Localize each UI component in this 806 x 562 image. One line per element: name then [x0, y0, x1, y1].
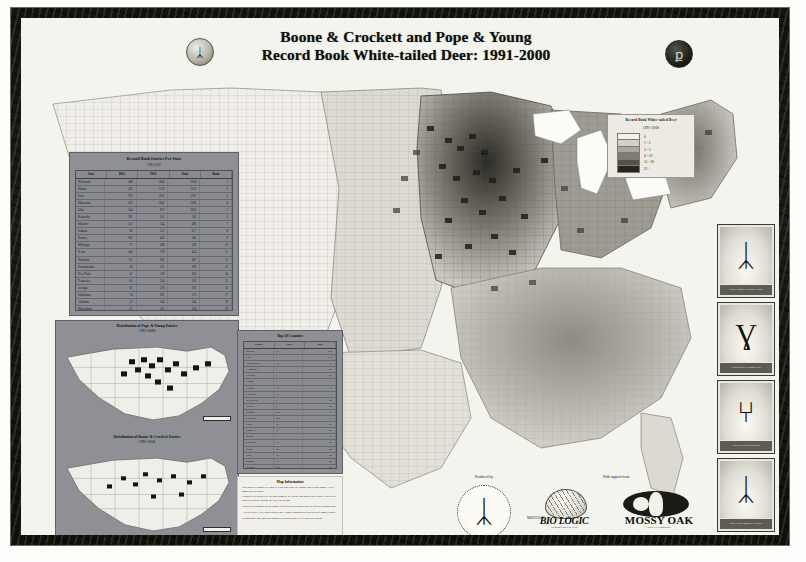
table-cell: WI — [274, 459, 304, 464]
column-header: Total — [305, 342, 336, 348]
legend-swatch — [617, 165, 640, 173]
inset-map-boone-crockett: Distribution of Boone & Crockett Entries… — [56, 435, 238, 535]
table-row: Ohio14487210165 — [76, 207, 232, 214]
legend-title-2: 1991-2000 — [608, 123, 694, 131]
table-cell: 3 — [200, 193, 232, 199]
table-cell: WI — [274, 422, 304, 427]
map-information-paragraph: Counties are shaded by the total number … — [238, 495, 342, 502]
table-row: Kansas1834025859 — [76, 235, 232, 242]
table-cell: Grant — [244, 422, 274, 427]
table-cell: IA — [274, 373, 304, 378]
title-line-2: Record Book White-tailed Deer: 1991-2000 — [171, 46, 641, 64]
table-cell: 521 — [137, 228, 169, 234]
table-cell: 47 — [105, 271, 137, 277]
table-cell: 331 — [137, 264, 169, 270]
column-header: P&Y — [138, 171, 169, 178]
table-cell: Mississippi — [76, 306, 105, 311]
table-cell: 498 — [137, 242, 169, 248]
table-cell: 13 — [200, 264, 232, 270]
table-row: Michigan7149856910 — [76, 242, 232, 249]
table-cell: WI — [274, 440, 304, 445]
table-cell: IA — [274, 367, 304, 372]
poster: Boone & Crockett and Pope & Young Record… — [11, 8, 789, 545]
column-header: Rank — [201, 171, 232, 178]
column-header: State — [275, 342, 306, 348]
trophy-photo-image: ᛣ — [720, 461, 772, 518]
table-cell: 295 — [137, 257, 169, 263]
table-cell: Ohio — [76, 207, 105, 213]
state-entries-table-panel: Record Book Entries Per State 1991-2000 … — [69, 152, 239, 316]
map-legend: Record Book White-tailed Deer 1991-2000 … — [607, 114, 695, 178]
table-cell: Winona — [244, 410, 274, 415]
state-table-subtitle: 1991-2000 — [70, 163, 238, 169]
table-cell: 325 — [168, 278, 200, 284]
state-table-header-row: StateB&CP&YTotalRank — [76, 171, 232, 179]
sponsor-strip: Produced by With support from ᛣ MOSSY OA… — [421, 473, 691, 535]
table-cell: 52 — [303, 434, 336, 439]
bio-logic-logo: MOSSY OAK BIO LOGIC Premium Food Plot Se… — [525, 489, 603, 535]
table-cell: 318 — [137, 271, 169, 277]
top-counties-table-panel: Top 50 Counties CountyStateTotal Buffalo… — [237, 330, 343, 474]
table-cell: Pike — [244, 355, 274, 360]
table-cell: 276 — [137, 249, 169, 255]
table-cell: 201 — [137, 292, 169, 298]
trophy-photo-image: Ɣ — [720, 305, 772, 362]
table-cell: Fillmore — [244, 465, 274, 469]
table-cell: Houston — [244, 416, 274, 421]
deer-antlers-icon: ᛣ — [737, 475, 755, 505]
table-cell: 118 — [303, 355, 336, 360]
table-cell: Dunn — [244, 447, 274, 452]
table-cell: 162 — [303, 349, 336, 354]
table-cell: MN — [274, 410, 304, 415]
table-row: Mississippi6116322419 — [76, 306, 232, 311]
table-cell: 48 — [303, 447, 336, 452]
table-cell: Oklahoma — [76, 292, 105, 298]
table-cell: 275 — [168, 292, 200, 298]
column-header: B&C — [107, 171, 138, 178]
table-cell: IL — [274, 404, 304, 409]
table-cell: WI — [274, 349, 304, 354]
table-cell: 163 — [105, 200, 137, 206]
county-table-grid: CountyStateTotal BuffaloWI162PikeIL118Tr… — [243, 341, 337, 469]
table-cell: 43 — [303, 465, 336, 469]
table-cell: 402 — [137, 235, 169, 241]
table-cell: 19 — [200, 306, 232, 311]
table-cell: 236 — [168, 299, 200, 305]
table-cell: WI — [274, 392, 304, 397]
inset-a-title-2: 1991-2000 — [56, 329, 238, 334]
legend-label: 6 - 10 — [644, 154, 652, 158]
table-cell: 74 — [105, 292, 137, 298]
table-cell: 1 — [200, 179, 232, 185]
table-cell: Schuyler — [244, 428, 274, 433]
table-cell: Iowa — [76, 193, 105, 199]
table-row: Alabama5218423618 — [76, 299, 232, 306]
table-cell: 389 — [168, 264, 200, 270]
map-information-text: Data source: Boone & Crockett Club and P… — [238, 486, 342, 520]
seal-right-glyph: ք — [666, 41, 692, 67]
legend-label: 21 + — [644, 167, 651, 171]
table-cell: 55 — [303, 428, 336, 433]
table-cell: Allamakee — [244, 367, 274, 372]
deer-antlers-icon: ᛣ — [737, 241, 755, 271]
inset-maps-panel: Distribution of Pope & Young Entries 199… — [55, 320, 239, 535]
table-row: Missouri1525346867 — [76, 221, 232, 228]
inset-a-map-graphic — [61, 337, 233, 426]
table-cell: Minnesota — [76, 200, 105, 206]
table-cell: 15 — [200, 278, 232, 284]
screenshot-page: Boone & Crockett and Pope & Young Record… — [0, 0, 806, 562]
table-cell: 686 — [168, 221, 200, 227]
table-cell: 14 — [200, 271, 232, 277]
table-cell: 1551 — [168, 186, 200, 192]
table-cell: 292 — [168, 285, 200, 291]
table-cell: 2 — [200, 186, 232, 192]
table-cell: MN — [274, 416, 304, 421]
with-support-from-label: With support from — [551, 475, 681, 479]
table-row: Tennessee8124432515 — [76, 278, 232, 285]
table-cell: 45 — [303, 459, 336, 464]
table-cell: 241 — [105, 186, 137, 192]
legend-title-1: Record Book White-tailed Deer — [608, 115, 694, 123]
table-cell: Trempealeau — [244, 361, 274, 366]
table-cell: 163 — [137, 306, 169, 311]
inset-map-pope-young: Distribution of Pope & Young Entries 199… — [56, 324, 238, 432]
table-cell: 112 — [105, 257, 137, 263]
